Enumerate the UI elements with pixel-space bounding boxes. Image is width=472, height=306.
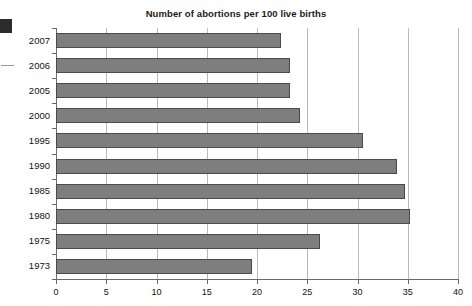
bar-2005 [56, 83, 290, 98]
x-axis-label-35: 35 [388, 287, 428, 297]
chart-title: Number of abortions per 100 live births [0, 8, 472, 19]
y-axis-label-1975: 1975 [6, 235, 50, 246]
bar-2000 [56, 108, 300, 123]
x-axis-label-0: 0 [36, 287, 76, 297]
y-axis-label-1973: 1973 [6, 260, 50, 271]
y-tick-1985 [52, 179, 57, 180]
gridline-30 [358, 28, 359, 279]
y-tick-1980 [52, 204, 57, 205]
x-tick-35 [408, 279, 409, 284]
bar-1995 [56, 133, 363, 148]
y-tick-1995 [52, 128, 57, 129]
y-tick-end [52, 279, 57, 280]
x-axis-label-10: 10 [137, 287, 177, 297]
x-tick-5 [106, 279, 107, 284]
y-axis-label-1985: 1985 [6, 185, 50, 196]
y-tick-2005 [52, 78, 57, 79]
x-axis-label-40: 40 [438, 287, 472, 297]
y-tick-2006 [52, 53, 57, 54]
x-tick-10 [157, 279, 158, 284]
x-axis-label-30: 30 [338, 287, 378, 297]
bar-2006 [56, 58, 290, 73]
y-tick-1975 [52, 229, 57, 230]
y-axis-label-2005: 2005 [6, 85, 50, 96]
y-axis-label-1990: 1990 [6, 160, 50, 171]
x-tick-20 [257, 279, 258, 284]
y-axis-label-2007: 2007 [6, 35, 50, 46]
bar-1975 [56, 234, 320, 249]
y-axis-label-1995: 1995 [6, 135, 50, 146]
bar-1973 [56, 259, 252, 274]
bar-1990 [56, 159, 397, 174]
gridline-40 [458, 28, 459, 279]
y-axis-label-2000: 2000 [6, 110, 50, 121]
y-axis-labels: 2007200620052000199519901985198019751973 [0, 28, 50, 279]
y-tick-2007 [52, 28, 57, 29]
bar-2007 [56, 33, 281, 48]
bar-1980 [56, 209, 410, 224]
y-tick-1990 [52, 154, 57, 155]
x-axis-label-5: 5 [86, 287, 126, 297]
y-tick-1973 [52, 254, 57, 255]
x-tick-15 [207, 279, 208, 284]
plot-area [56, 28, 458, 279]
x-tick-30 [358, 279, 359, 284]
y-tick-2000 [52, 103, 57, 104]
x-axis-label-20: 20 [237, 287, 277, 297]
x-tick-25 [307, 279, 308, 284]
x-axis-label-15: 15 [187, 287, 227, 297]
gridline-35 [408, 28, 409, 279]
y-axis-label-2006: 2006 [6, 60, 50, 71]
x-tick-40 [458, 279, 459, 284]
y-axis-label-1980: 1980 [6, 210, 50, 221]
x-axis-label-25: 25 [287, 287, 327, 297]
bar-1985 [56, 184, 405, 199]
